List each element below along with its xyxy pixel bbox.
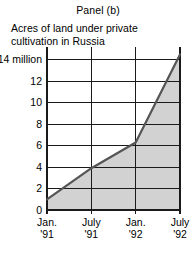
x-tick-label-month: July	[171, 216, 190, 228]
y-tick-label: 14 million	[0, 53, 42, 65]
figure-panel-b: Panel (b) Acres of land under private cu…	[0, 0, 196, 255]
x-tick-label-month: July	[82, 216, 101, 228]
x-tick-label-year: '92	[129, 228, 143, 240]
y-tick-label: 6	[36, 139, 42, 151]
plot-area-wrapper: 02468101214 million Jan.'91July'91Jan.'9…	[0, 0, 196, 255]
x-tick-label-month: Jan.	[126, 216, 146, 228]
x-tick-labels-group: Jan.'91July'91Jan.'92July'92	[37, 216, 190, 240]
data-area-group	[47, 55, 180, 210]
y-tick-labels-group: 02468101214 million	[0, 53, 42, 215]
x-tick-label-month: Jan.	[37, 216, 57, 228]
y-tick-label: 0	[36, 204, 42, 216]
y-tick-label: 12	[30, 75, 42, 87]
area-chart: 02468101214 million Jan.'91July'91Jan.'9…	[0, 0, 196, 255]
x-tick-label-year: '91	[84, 228, 98, 240]
x-tick-label-year: '92	[173, 228, 187, 240]
y-tick-label: 10	[30, 96, 42, 108]
y-tick-label: 4	[36, 161, 42, 173]
x-tick-label-year: '91	[40, 228, 54, 240]
y-tick-label: 2	[36, 182, 42, 194]
series-area-fill	[47, 55, 180, 210]
y-tick-label: 8	[36, 118, 42, 130]
